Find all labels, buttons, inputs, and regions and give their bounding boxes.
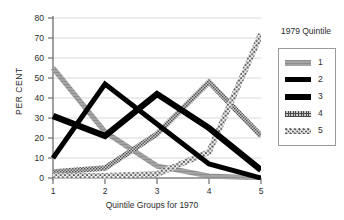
x-tick-labels: 1 2 3 4 5 [51, 186, 264, 196]
legend-box: 1 2 3 4 5 [278, 48, 336, 146]
legend-label-1: 1 [318, 58, 323, 67]
legend-item-1[interactable]: 1 [279, 54, 335, 71]
legend-swatch-5 [285, 128, 311, 134]
series-lines [53, 34, 261, 178]
y-tick-60: 60 [35, 53, 45, 63]
x-tick-3: 3 [155, 186, 160, 196]
y-tick-80: 80 [35, 13, 45, 23]
y-tick-70: 70 [35, 33, 45, 43]
legend-item-4[interactable]: 4 [279, 105, 335, 122]
y-tick-40: 40 [35, 93, 45, 103]
legend-label-4: 4 [318, 109, 323, 118]
legend-item-3[interactable]: 3 [279, 88, 335, 105]
x-tick-4: 4 [207, 186, 212, 196]
legend-swatch-4 [285, 111, 311, 117]
legend-label-3: 3 [318, 92, 323, 101]
legend-item-5[interactable]: 5 [279, 122, 335, 139]
plot-area: 0 10 20 30 40 50 60 70 80 1 2 [0, 0, 270, 200]
plot-svg: 0 10 20 30 40 50 60 70 80 1 2 [0, 0, 270, 200]
legend-label-2: 2 [318, 75, 323, 84]
x-tick-1: 1 [51, 186, 56, 196]
legend-swatch-3 [285, 94, 311, 100]
legend-item-2[interactable]: 2 [279, 71, 335, 88]
legend-swatch-1 [285, 60, 311, 66]
legend-label-5: 5 [318, 126, 323, 135]
x-tick-5: 5 [259, 186, 264, 196]
legend-title: 1979 Quintile [268, 26, 344, 36]
legend-swatch-2 [285, 77, 311, 82]
y-tick-20: 20 [35, 133, 45, 143]
y-tick-labels: 0 10 20 30 40 50 60 70 80 [35, 13, 45, 183]
x-tick-2: 2 [103, 186, 108, 196]
chart-figure: PER CENT [0, 0, 344, 220]
y-tick-10: 10 [35, 153, 45, 163]
y-tick-30: 30 [35, 113, 45, 123]
y-tick-50: 50 [35, 73, 45, 83]
y-tick-0: 0 [39, 173, 44, 183]
x-axis-title: Quintile Groups for 1970 [44, 200, 260, 210]
